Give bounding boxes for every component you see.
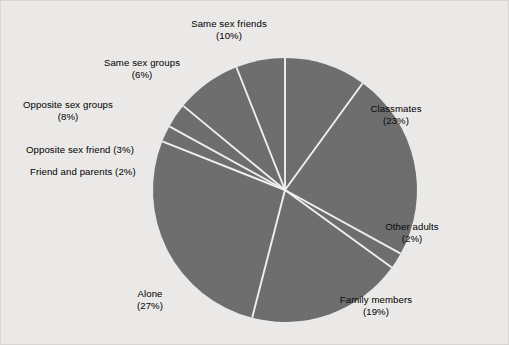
pie-slice-label: Opposite sex friend (3%) [26, 144, 134, 156]
pie-slice-label-percent: (6%) [104, 69, 180, 81]
pie-slice-label-name: Same sex groups [104, 57, 180, 69]
pie-slice-label-percent: (23%) [370, 115, 421, 127]
pie-slice-label-percent: (8%) [23, 111, 113, 123]
pie-slice-label-percent: (2%) [385, 233, 438, 245]
pie-slice-label-percent: (19%) [340, 306, 412, 318]
pie-slice-label: Opposite sex groups(8%) [23, 99, 113, 122]
pie-slice-label-percent: (10%) [191, 30, 267, 42]
pie-chart-figure: Same sex friends(10%)Classmates(23%)Othe… [0, 0, 509, 345]
pie-slice-label-name: Friend and parents (2%) [30, 166, 136, 177]
pie-slice-label-name: Opposite sex friend (3%) [26, 144, 134, 155]
pie-slice-label-name: Alone [137, 288, 163, 300]
pie-slice-label: Same sex friends(10%) [191, 18, 267, 41]
pie-slice-label: Friend and parents (2%) [30, 166, 136, 178]
pie-slice-label: Same sex groups(6%) [104, 57, 180, 80]
pie-slice-label: Alone(27%) [137, 288, 163, 311]
pie-slice-label-name: Classmates [370, 103, 421, 115]
pie-slice-label-percent: (27%) [137, 300, 163, 312]
pie-slice-label-name: Opposite sex groups [23, 99, 113, 111]
pie-slice-label-name: Same sex friends [191, 18, 267, 30]
pie-slice-label: Family members(19%) [340, 294, 412, 317]
pie-slice-label: Other adults(2%) [385, 221, 438, 244]
pie-slice-label-name: Other adults [385, 221, 438, 233]
pie-slice-label-name: Family members [340, 294, 412, 306]
pie-slice-label: Classmates(23%) [370, 103, 421, 126]
